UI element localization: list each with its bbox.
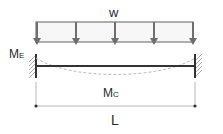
left-fixed-support [29,54,36,78]
load-label: w [109,6,118,19]
center-moment-label: MC [103,87,119,99]
distributed-load [33,22,197,45]
end-moment-label: ME [9,48,24,60]
dimension-dot-left [34,104,37,107]
right-fixed-support [195,54,202,78]
dimension-dot-right [193,104,196,107]
span-label: L [111,113,119,127]
